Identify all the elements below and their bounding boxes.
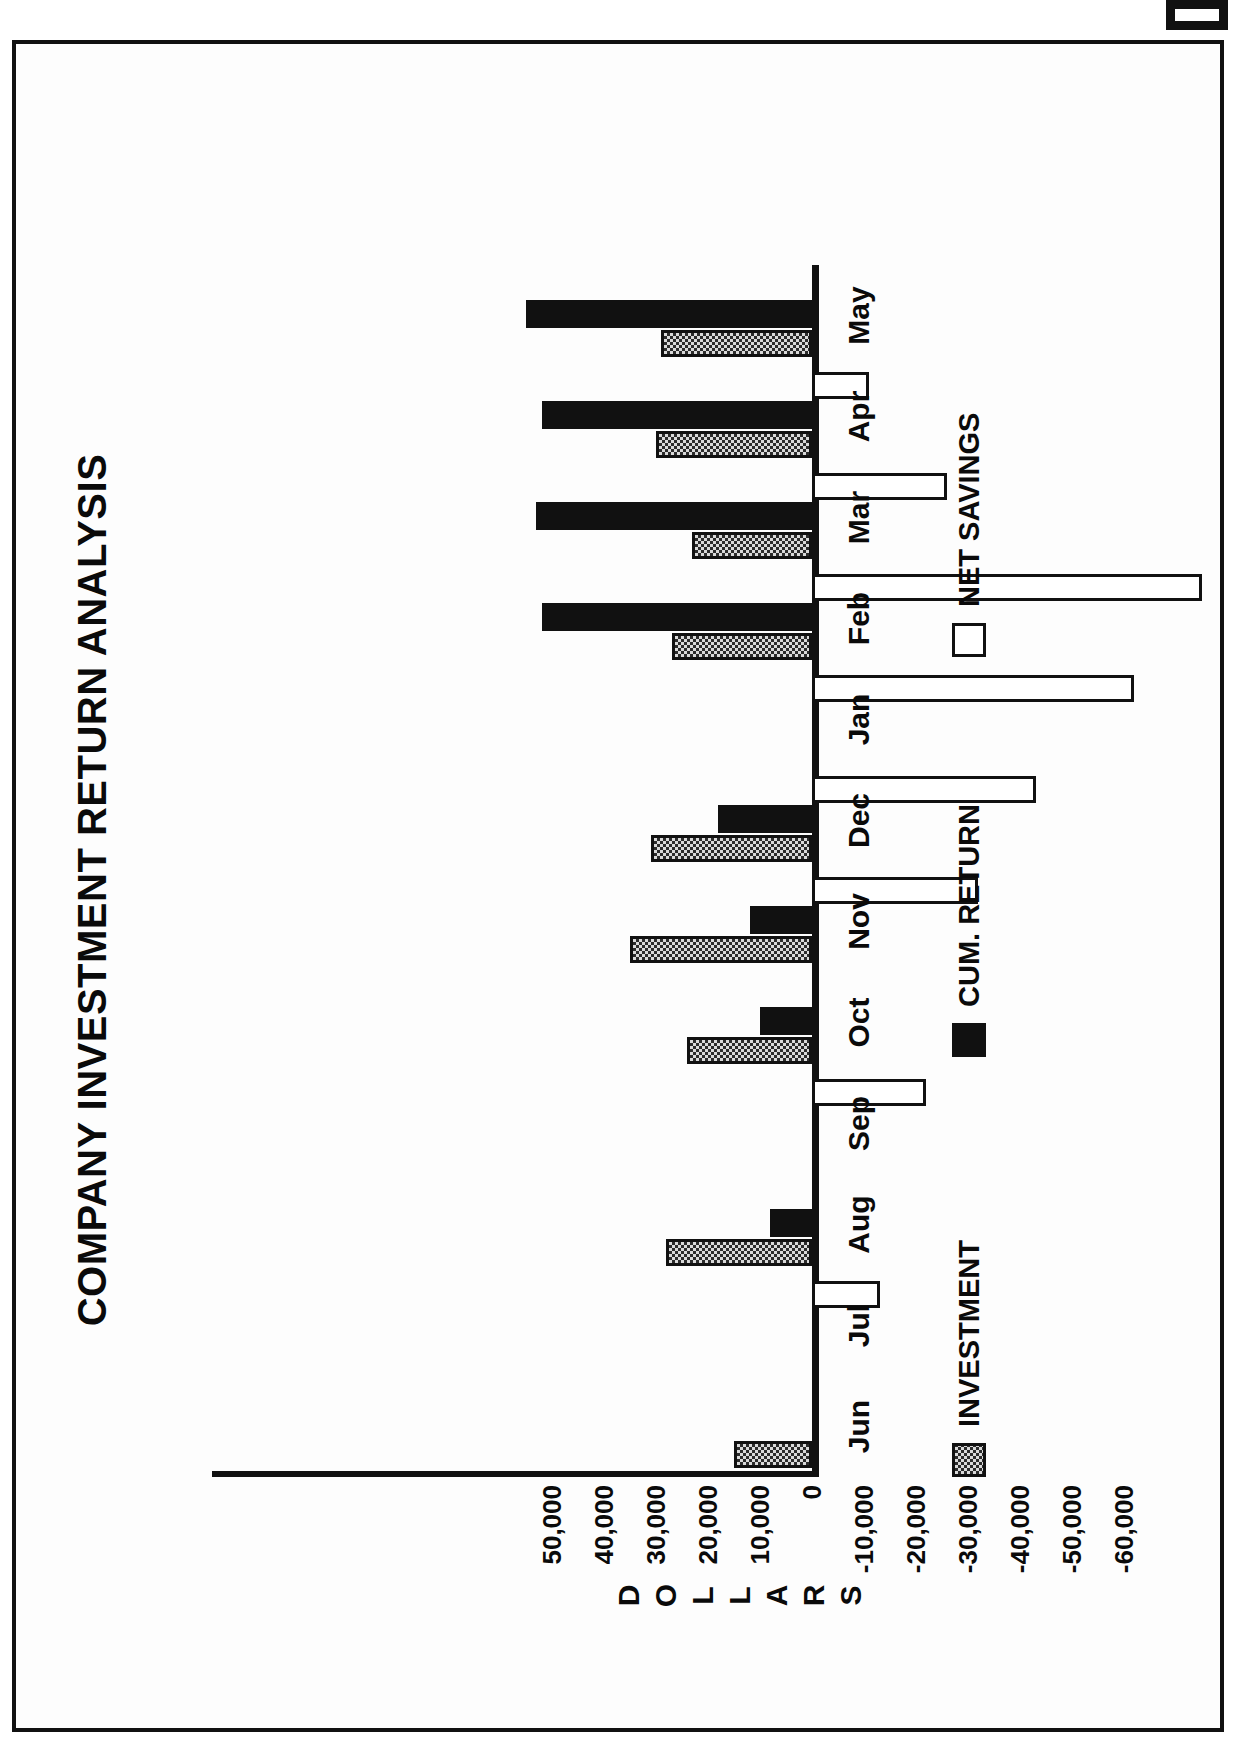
bar-investment — [656, 431, 812, 458]
chart-canvas: COMPANY INVESTMENT RETURN ANALYSIS DOLLA… — [52, 85, 1192, 1695]
y-tick-label: 0 — [797, 1485, 828, 1499]
bar-cum-return — [750, 906, 812, 933]
legend-item: NET SAVINGS — [952, 413, 986, 657]
scanned-page-frame: COMPANY INVESTMENT RETURN ANALYSIS DOLLA… — [12, 40, 1224, 1732]
y-tick-label: -40,000 — [1005, 1485, 1036, 1573]
y-tick-label: -10,000 — [849, 1485, 880, 1573]
bar-cum-return — [770, 1209, 812, 1236]
month-label-may: May — [842, 286, 876, 344]
bar-investment — [651, 835, 812, 862]
month-label-jan: Jan — [842, 694, 876, 746]
legend-label: CUM. RETURN — [953, 804, 986, 1007]
chart-title: COMPANY INVESTMENT RETURN ANALYSIS — [70, 85, 115, 1695]
legend-item: INVESTMENT — [952, 1240, 986, 1477]
month-label-jun: Jun — [842, 1400, 876, 1453]
legend-label: NET SAVINGS — [953, 413, 986, 607]
month-label-dec: Dec — [842, 793, 876, 848]
x-axis-month-labels: JunJulAugSepOctNovDecJanFebMarAprMay — [842, 265, 888, 1477]
month-label-aug: Aug — [842, 1195, 876, 1253]
legend-swatch-cum-return — [952, 1023, 986, 1057]
y-tick-label: 50,000 — [537, 1485, 568, 1565]
scan-marker-inner — [1175, 9, 1219, 21]
y-tick-label: 40,000 — [589, 1485, 620, 1565]
month-label-feb: Feb — [842, 592, 876, 645]
bar-cum-return — [760, 1007, 812, 1034]
month-label-mar: Mar — [842, 491, 876, 544]
bar-investment — [630, 936, 812, 963]
bar-cum-return — [542, 603, 812, 630]
y-tick-label: -60,000 — [1109, 1485, 1140, 1573]
month-label-apr: Apr — [842, 391, 876, 443]
month-label-nov: Nov — [842, 893, 876, 950]
bar-investment — [661, 330, 812, 357]
chart-legend: INVESTMENTCUM. RETURNNET SAVINGS — [952, 265, 1012, 1477]
y-tick-label: -30,000 — [953, 1485, 984, 1573]
month-label-oct: Oct — [842, 997, 876, 1047]
bar-investment — [666, 1239, 812, 1266]
bar-investment — [692, 532, 812, 559]
month-label-sep: Sep — [842, 1096, 876, 1151]
legend-swatch-net-savings — [952, 623, 986, 657]
month-label-jul: Jul — [842, 1304, 876, 1347]
y-tick-label: -50,000 — [1057, 1485, 1088, 1573]
scan-marker — [1166, 0, 1228, 30]
y-tick-label: 10,000 — [745, 1485, 776, 1565]
y-axis-tick-labels: 50,00040,00030,00020,00010,0000-10,000-2… — [812, 1485, 1242, 1635]
legend-label: INVESTMENT — [953, 1240, 986, 1427]
bar-cum-return — [718, 805, 812, 832]
y-tick-label: 30,000 — [641, 1485, 672, 1565]
y-tick-label: -20,000 — [901, 1485, 932, 1573]
rotated-chart-container: COMPANY INVESTMENT RETURN ANALYSIS DOLLA… — [16, 44, 1228, 1736]
category-axis-line — [212, 1471, 812, 1477]
legend-item: CUM. RETURN — [952, 804, 986, 1057]
bar-investment — [672, 633, 812, 660]
bar-cum-return — [542, 401, 812, 428]
bar-cum-return — [536, 502, 812, 529]
bar-investment — [687, 1037, 812, 1064]
y-tick-label: 20,000 — [693, 1485, 724, 1565]
bar-cum-return — [526, 300, 812, 327]
bar-investment — [734, 1441, 812, 1468]
legend-swatch-investment — [952, 1443, 986, 1477]
